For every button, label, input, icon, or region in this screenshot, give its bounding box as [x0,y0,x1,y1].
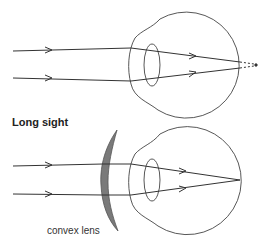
eyeball-outline [129,127,242,235]
ray-upper [13,164,240,180]
ray-lower [13,180,240,195]
convex-lens [101,130,118,231]
long-sight-title: Long sight [12,116,68,128]
extrapolated-ray [240,66,254,68]
eyeball-outline [129,12,239,118]
bottom-eye [129,127,242,235]
arrow-icon [179,186,186,192]
convex-lens-label: convex lens [47,225,100,236]
top-eye [129,12,239,118]
focus-point [255,64,257,66]
bottom-rays [13,162,240,197]
arrow-icon [45,75,52,81]
eye-lens [144,159,160,201]
top-rays [13,47,257,81]
extrapolated-ray [240,62,254,64]
ray-upper [13,48,240,62]
ray-lower [13,68,240,81]
